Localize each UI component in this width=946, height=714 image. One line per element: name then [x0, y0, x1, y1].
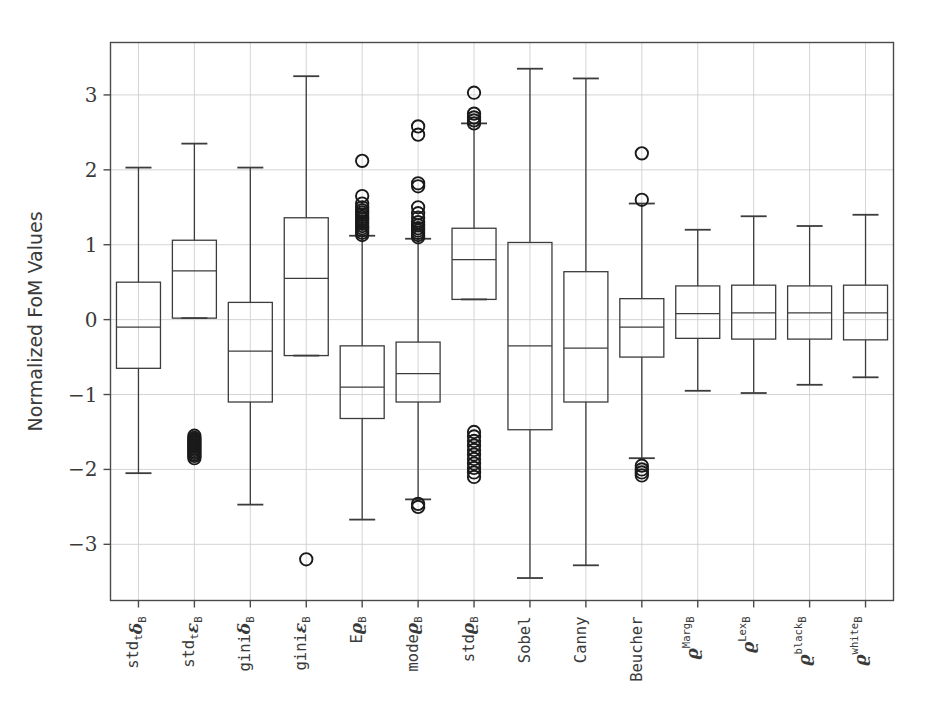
box-iqr	[620, 299, 664, 357]
x-tick-label: stdϱB	[458, 617, 480, 663]
box-iqr	[564, 272, 608, 402]
box-iqr	[508, 242, 552, 429]
y-tick-label: −2	[68, 457, 97, 481]
box-iqr	[284, 218, 328, 356]
chart-canvas: −3−2−10123 stdtδBstdtεBginiδBginiεBEϱBmo…	[0, 0, 946, 714]
x-tick-label: Canny	[572, 617, 590, 664]
x-tick-label: giniεB	[290, 617, 312, 671]
y-tick-label: 2	[85, 158, 98, 182]
x-tick-label: modeϱB	[402, 617, 424, 672]
y-tick-label: −1	[68, 383, 97, 407]
box-iqr	[340, 346, 384, 419]
box-iqr	[676, 286, 720, 338]
x-tick-label: Beucher	[628, 617, 646, 682]
y-axis-title: Normalized FoM Values	[24, 211, 46, 431]
box-iqr	[396, 342, 440, 402]
box-iqr	[172, 240, 216, 318]
y-axis-title-group: Normalized FoM Values	[24, 211, 46, 431]
box-iqr	[452, 228, 496, 299]
boxplot-figure: −3−2−10123 stdtδBstdtεBginiδBginiεBEϱBmo…	[0, 0, 946, 714]
y-tick-label: −3	[68, 532, 97, 556]
box-iqr	[732, 285, 776, 339]
y-tick-label: 0	[85, 308, 98, 332]
box-iqr	[116, 282, 160, 368]
x-tick-label: Sobel	[516, 617, 534, 664]
x-tick-label: giniδB	[234, 617, 256, 672]
y-tick-label: 1	[85, 233, 98, 257]
box-iqr	[228, 302, 272, 402]
y-tick-label: 3	[85, 83, 98, 107]
